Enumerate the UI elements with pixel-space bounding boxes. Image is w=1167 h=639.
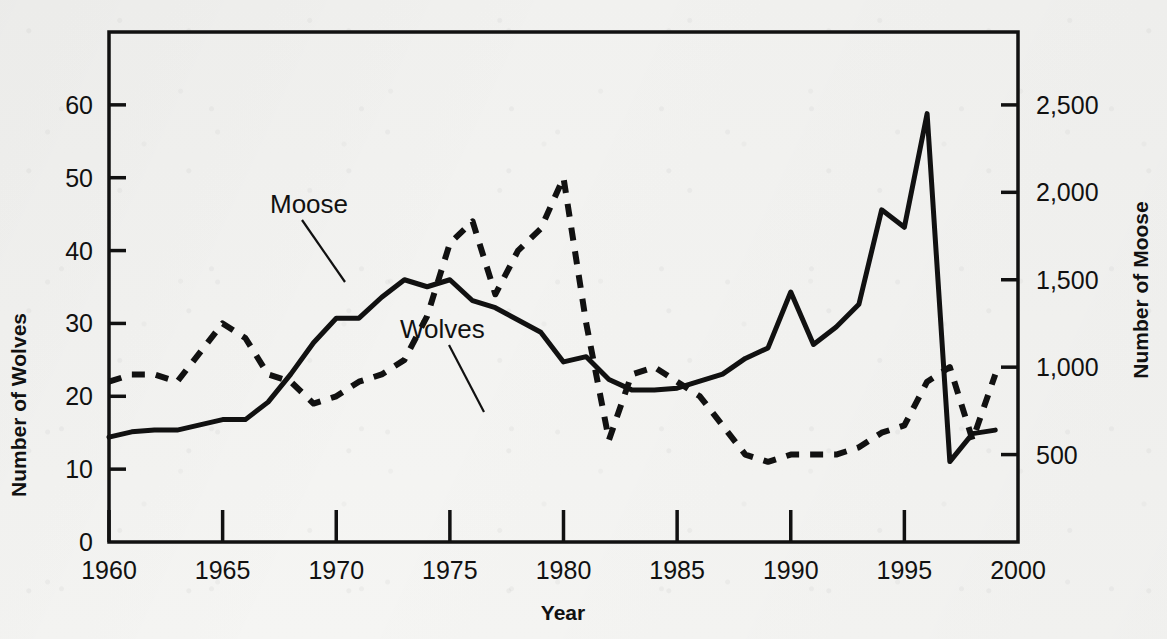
- x-axis-tick-label: 1970: [308, 556, 364, 584]
- isle-royale-wolf-moose-chart: 0102030405060 5001,0001,5002,0002,500 19…: [0, 0, 1167, 639]
- plot-frame: [109, 32, 1018, 542]
- y-axis-right-ticks: [1001, 105, 1018, 455]
- x-axis-tick-label: 1995: [877, 556, 933, 584]
- y-axis-right-tick-labels: 5001,0001,5002,0002,500: [1036, 91, 1099, 469]
- y-axis-left-tick-label: 40: [65, 237, 93, 265]
- x-axis-tick-label: 1960: [81, 556, 137, 584]
- y-axis-right-title: Number of Moose: [1129, 201, 1152, 378]
- y-axis-left-ticks: [109, 105, 126, 469]
- wolves-series-label: Wolves: [400, 314, 485, 344]
- y-axis-right-tick-label: 2,000: [1036, 178, 1099, 206]
- y-axis-left-tick-label: 20: [65, 382, 93, 410]
- moose-leader-line: [302, 220, 345, 282]
- x-axis-tick-label: 2000: [990, 556, 1046, 584]
- y-axis-right-tick-label: 1,500: [1036, 266, 1099, 294]
- y-axis-left-tick-label: 0: [79, 528, 93, 556]
- x-axis-tick-label: 1975: [422, 556, 478, 584]
- x-axis-tick-label: 1990: [763, 556, 819, 584]
- y-axis-right-tick-label: 1,000: [1036, 353, 1099, 381]
- x-axis-tick-label: 1980: [536, 556, 592, 584]
- x-axis-tick-labels: 196019651970197519801985199019952000: [81, 556, 1046, 584]
- x-axis-title: Year: [541, 601, 585, 624]
- wolves-leader-line: [449, 345, 484, 412]
- x-axis-ticks: [109, 510, 904, 542]
- y-axis-right-tick-label: 2,500: [1036, 91, 1099, 119]
- y-axis-left-tick-label: 30: [65, 309, 93, 337]
- y-axis-left-tick-labels: 0102030405060: [65, 91, 93, 556]
- moose-series-line: [109, 114, 995, 462]
- moose-series-label: Moose: [270, 189, 348, 219]
- y-axis-left-tick-label: 50: [65, 164, 93, 192]
- x-axis-tick-label: 1985: [649, 556, 705, 584]
- y-axis-right-tick-label: 500: [1036, 441, 1078, 469]
- x-axis-tick-label: 1965: [195, 556, 251, 584]
- y-axis-left-tick-label: 10: [65, 455, 93, 483]
- y-axis-left-tick-label: 60: [65, 91, 93, 119]
- y-axis-left-title: Number of Wolves: [7, 313, 30, 497]
- chart-figure: 0102030405060 5001,0001,5002,0002,500 19…: [0, 0, 1167, 639]
